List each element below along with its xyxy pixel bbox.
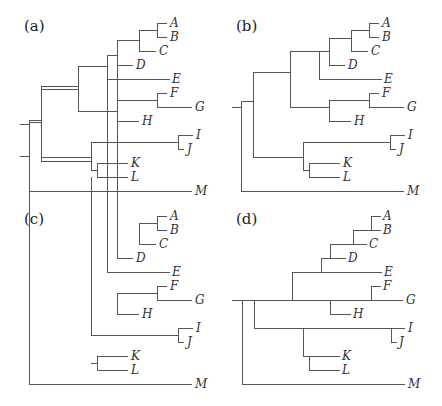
leaf-label-K: K — [342, 156, 353, 170]
leaf-label-A: A — [169, 209, 179, 223]
tree-branches-c — [20, 40, 193, 384]
leaf-label-E: E — [171, 72, 181, 86]
leaf-label-I: I — [195, 128, 201, 142]
leaf-label-E: E — [383, 72, 393, 86]
leaf-label-A: A — [381, 16, 391, 30]
leaf-label-F: F — [382, 279, 392, 293]
tree-panel-a: (a) ABCDEFGHIJKLM — [20, 16, 208, 198]
leaf-label-J: J — [396, 142, 405, 156]
leaf-label-H: H — [353, 114, 365, 128]
leaf-label-B: B — [169, 223, 179, 237]
leaf-label-B: B — [169, 30, 179, 44]
leaf-label-D: D — [135, 251, 146, 265]
panel-label-d: (d) — [236, 210, 257, 228]
leaf-label-A: A — [382, 209, 392, 223]
leaf-label-C: C — [369, 237, 378, 251]
leaf-label-M: M — [194, 377, 208, 391]
leaf-label-I: I — [407, 128, 413, 142]
leaf-label-M: M — [406, 184, 420, 198]
leaf-label-G: G — [406, 293, 416, 307]
leaf-label-L: L — [130, 170, 139, 184]
tree-panel-c: (c) ABCDEFGHIJKLM — [20, 40, 208, 391]
leaf-label-E: E — [171, 265, 181, 279]
leaf-label-J: J — [184, 142, 193, 156]
tree-panel-b: (b) ABCDEFGHIJKLM — [232, 16, 420, 198]
leaf-label-A: A — [169, 16, 179, 30]
leaf-label-D: D — [135, 58, 146, 72]
leaf-label-F: F — [169, 279, 179, 293]
leaf-label-C: C — [159, 44, 168, 58]
leaf-label-D: D — [347, 58, 358, 72]
leaf-label-E: E — [383, 265, 393, 279]
leaf-label-D: D — [347, 251, 358, 265]
phylogenetic-tree-figure: (a) ABCDEFGHIJKLM (b) ABCDEFGHIJKLM (c) … — [0, 0, 442, 406]
leaf-label-C: C — [159, 237, 168, 251]
leaf-label-K: K — [130, 156, 141, 170]
leaf-label-M: M — [407, 377, 421, 391]
leaf-label-H: H — [141, 307, 153, 321]
leaf-label-M: M — [194, 184, 208, 198]
leaf-label-I: I — [195, 321, 201, 335]
leaf-label-K: K — [341, 349, 352, 363]
leaf-label-G: G — [195, 293, 205, 307]
leaf-label-H: H — [141, 114, 153, 128]
tree-panel-d: (d) ABCDEFGHIJKLM — [232, 209, 421, 391]
leaf-label-I: I — [407, 321, 413, 335]
leaf-label-B: B — [382, 223, 392, 237]
panel-label-a: (a) — [24, 17, 45, 35]
leaf-label-H: H — [352, 307, 364, 321]
leaf-label-C: C — [371, 44, 380, 58]
panel-label-c: (c) — [24, 210, 44, 228]
leaf-label-L: L — [341, 363, 350, 377]
tree-branches-d — [232, 216, 405, 384]
leaf-label-F: F — [381, 86, 391, 100]
leaf-label-J: J — [184, 335, 193, 349]
leaf-label-L: L — [342, 170, 351, 184]
leaf-label-F: F — [169, 86, 179, 100]
leaf-label-K: K — [130, 349, 141, 363]
leaf-label-B: B — [381, 30, 391, 44]
leaf-label-G: G — [407, 100, 417, 114]
panel-label-b: (b) — [236, 17, 257, 35]
leaf-label-L: L — [130, 363, 139, 377]
leaf-label-J: J — [396, 335, 405, 349]
leaf-label-G: G — [195, 100, 205, 114]
